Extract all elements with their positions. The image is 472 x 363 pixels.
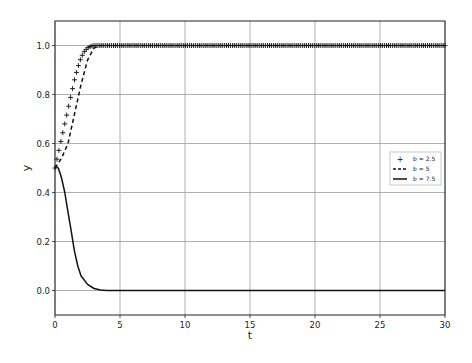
x-axis-ticks: 051015202530 bbox=[52, 315, 450, 330]
x-tick-label: 5 bbox=[117, 320, 122, 330]
x-tick-label: 30 bbox=[440, 320, 451, 330]
y-tick-label: 1.0 bbox=[36, 41, 50, 51]
legend: + b = 2.5 b = 5 b = 7.5 bbox=[390, 152, 441, 185]
x-tick-label: 20 bbox=[310, 320, 321, 330]
x-tick-label: 0 bbox=[52, 320, 57, 330]
y-tick-label: 0.2 bbox=[36, 237, 50, 247]
y-axis-label: y bbox=[20, 164, 33, 171]
y-tick-label: 0.0 bbox=[36, 286, 50, 296]
legend-label: b = 2.5 bbox=[413, 155, 435, 162]
legend-label: b = 7.5 bbox=[413, 175, 435, 182]
y-tick-label: 0.8 bbox=[36, 90, 50, 100]
y-tick-label: 0.6 bbox=[36, 139, 50, 149]
x-tick-label: 25 bbox=[375, 320, 386, 330]
plus-marker-icon: + bbox=[397, 155, 404, 164]
line-chart: 051015202530 0.00.20.40.60.81.0 t y + b … bbox=[0, 0, 472, 363]
x-tick-label: 10 bbox=[180, 320, 191, 330]
y-tick-label: 0.4 bbox=[36, 188, 50, 198]
grid-lines bbox=[55, 21, 445, 315]
x-axis-label: t bbox=[248, 329, 253, 342]
y-axis-ticks: 0.00.20.40.60.81.0 bbox=[36, 41, 55, 296]
legend-label: b = 5 bbox=[413, 165, 430, 172]
